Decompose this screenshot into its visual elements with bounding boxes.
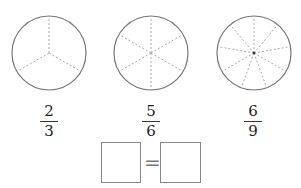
sector-divider [151, 53, 183, 72]
sector-divider [254, 53, 267, 88]
sector-divider [119, 53, 151, 72]
sector-divider [254, 25, 278, 53]
fraction-five-sixths: 5 6 [136, 104, 166, 139]
center-dot [253, 52, 256, 55]
sector-divider [49, 53, 81, 72]
denominator: 3 [34, 124, 64, 139]
circle-ninths [217, 16, 291, 90]
numerator: 6 [238, 104, 268, 119]
sector-divider [119, 35, 151, 54]
sector-divider [230, 25, 254, 53]
sector-divider [151, 35, 183, 54]
circle-sixths [114, 16, 188, 90]
sector-divider [222, 53, 254, 72]
circle-thirds [12, 16, 86, 90]
sector-divider [241, 53, 254, 88]
sector-divider [254, 47, 290, 53]
answer-box-right[interactable] [160, 142, 201, 183]
denominator: 9 [238, 124, 268, 139]
fraction-two-thirds: 2 3 [34, 104, 64, 139]
denominator: 6 [136, 124, 166, 139]
numerator: 5 [136, 104, 166, 119]
numerator: 2 [34, 104, 64, 119]
sector-divider [254, 53, 286, 72]
answer-box-left[interactable] [101, 142, 141, 183]
sector-divider [218, 47, 254, 53]
fraction-six-ninths: 6 9 [238, 104, 268, 139]
equals-sign: = [144, 152, 161, 172]
sector-divider [17, 53, 49, 72]
